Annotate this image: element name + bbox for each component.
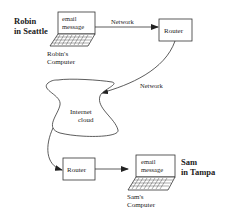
svg-text:Router: Router (67, 166, 87, 174)
svg-text:in Tampa: in Tampa (181, 167, 216, 177)
network-link-top: Network (95, 18, 158, 27)
svg-text:Sam: Sam (181, 157, 197, 167)
sender-screen-text: email (62, 15, 77, 22)
svg-text:in Seattle: in Seattle (14, 26, 48, 36)
svg-text:Network: Network (140, 82, 163, 89)
receiver-computer-label: Sam's Computer (127, 193, 156, 209)
svg-text:Robin: Robin (14, 16, 36, 26)
svg-text:message: message (141, 166, 163, 173)
sender-location-label: Robin in Seattle (14, 16, 48, 36)
svg-text:Robin's: Robin's (47, 50, 68, 58)
router-top: Router (159, 19, 192, 41)
svg-text:Computer: Computer (47, 58, 76, 66)
internet-cloud-icon: Internet cloud (46, 79, 118, 136)
internet-email-diagram: Robin in Seattle email message Robin's C… (0, 0, 230, 214)
svg-text:Internet: Internet (70, 108, 92, 116)
receiver-laptop-icon: email message (128, 155, 175, 190)
svg-text:Sam's: Sam's (127, 193, 144, 201)
svg-text:cloud: cloud (78, 116, 94, 124)
svg-text:Computer: Computer (127, 201, 156, 209)
svg-text:Router: Router (164, 27, 184, 35)
receiver-location-label: Sam in Tampa (181, 157, 216, 177)
sender-computer-label: Robin's Computer (47, 50, 76, 66)
svg-text:message: message (62, 23, 84, 30)
sender-laptop-icon: email message (50, 12, 95, 46)
network-link-left (48, 128, 62, 170)
svg-text:Network: Network (111, 18, 134, 25)
router-bottom: Router (63, 158, 95, 180)
receiver-screen-text: email (141, 158, 156, 165)
